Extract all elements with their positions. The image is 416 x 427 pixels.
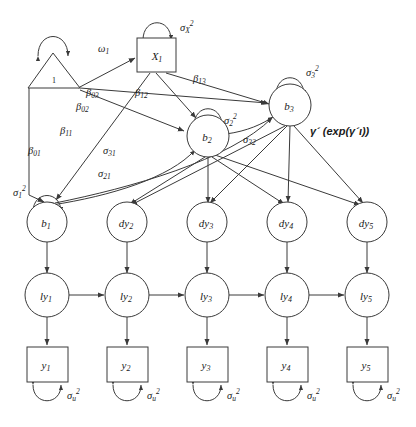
node-ly4[interactable]: ly4 [265,273,309,317]
node-constant[interactable]: 1 [28,53,80,88]
label-sigma-u-squared-2: σu2 [147,387,160,403]
node-ly5[interactable]: ly5 [345,273,389,317]
node-x1[interactable]: X1 [137,38,176,72]
label-gamma-expression: γ´ (exp(γ´ι)) [310,125,370,137]
label-sigma2-squared: σ22 [224,112,237,128]
variance-loop-y5 [353,385,381,401]
node-dy3[interactable]: dy3 [187,202,227,242]
node-dy4[interactable]: dy4 [267,202,307,242]
label-sigma-u-squared-5: σu2 [387,387,400,403]
node-y5[interactable]: y5 [347,347,388,382]
path-b3-to-dy4 [288,126,290,202]
label-sigma-u-squared-4: σu2 [307,387,320,403]
node-ly3[interactable]: ly3 [185,273,229,317]
diagram-canvas: 1 X1 b2 b3 b1 [0,0,416,427]
label-sigma31: σ31 [103,145,116,158]
covariance-b3-b1 [55,118,272,203]
node-y4[interactable]: y4 [267,347,308,382]
node-b1[interactable]: b1 [27,202,67,242]
label-beta13: β13 [192,73,206,86]
label-sigma1-squared: σ12 [13,184,26,200]
covariance-b2-b1 [52,150,195,205]
label-sigma3-squared: σ32 [306,64,319,80]
path-b2-to-dy5 [215,155,360,205]
path-b3-to-dy5 [294,126,363,203]
node-dy5[interactable]: dy5 [347,202,387,242]
variance-loop-x1 [143,23,171,40]
label-sigma-x-squared: σX2 [180,19,194,35]
label-sigma21: σ21 [98,168,111,181]
label-omega1: ω1 [98,43,109,56]
node-ly1[interactable]: ly1 [25,273,69,317]
label-beta03: β03 [85,87,99,100]
node-b3[interactable]: b3 [269,84,311,126]
node-dy2[interactable]: dy2 [107,202,147,242]
variance-loop-y2 [113,385,141,401]
label-beta02: β02 [75,101,89,114]
label-sigma-u-squared-1: σu2 [67,387,80,403]
path-b2-to-dy2 [130,157,205,204]
variance-loop-y1 [33,385,61,401]
node-y1[interactable]: y1 [27,347,68,382]
label-beta11: β11 [59,125,72,138]
path-b2-to-dy4 [212,157,284,204]
node-y3[interactable]: y3 [187,347,228,382]
node-ly2[interactable]: ly2 [105,273,149,317]
sem-path-diagram: 1 X1 b2 b3 b1 [0,0,416,427]
variance-loop-y3 [193,385,221,401]
node-constant-label: 1 [52,76,56,85]
label-beta12: β12 [134,87,148,100]
node-b2[interactable]: b2 [187,115,229,157]
label-sigma-u-squared-3: σu2 [227,387,240,403]
path-constant-to-x1 [78,58,135,88]
variance-loop-y4 [273,385,301,401]
node-y2[interactable]: y2 [107,347,148,382]
